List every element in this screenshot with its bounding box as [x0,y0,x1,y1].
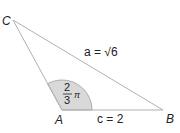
vertex-c-label: C [2,14,11,28]
triangle-diagram: C A B a = √6 c = 2 2 3 π [0,0,180,133]
vertex-b-label: B [166,112,174,126]
angle-pi-symbol: π [74,90,81,100]
vertex-a-label: A [54,113,63,127]
side-a-label: a = √6 [84,45,118,59]
angle-numerator: 2 [64,81,70,93]
angle-denominator: 3 [64,94,70,106]
side-ac [13,20,62,110]
side-c-label: c = 2 [97,112,124,126]
